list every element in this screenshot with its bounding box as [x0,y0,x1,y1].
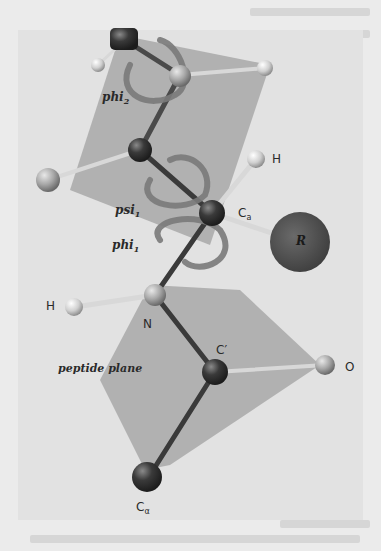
r-group-label: R [296,234,306,248]
calpha-bottom-subscript: α [144,507,149,516]
phi1-text: phi [112,238,134,252]
o-atom-label: O [345,360,354,374]
diagram-graphics [0,0,381,551]
peptide-diagram: phi2 H psi1 Ca R phi1 H N C′ O peptide p… [0,0,381,551]
phi2-text: phi [102,90,124,104]
psi1-subscript: 1 [135,209,141,219]
phi1-label: phi1 [112,238,139,254]
peptide-plane-label: peptide plane [58,362,142,375]
psi1-label: psi1 [115,203,140,219]
phi2-label: phi2 [102,90,129,106]
phi2-subscript: 2 [124,96,130,106]
calpha-mid-subscript: a [246,213,251,222]
calpha-mid-label: Ca [238,206,251,222]
h-top-label: H [272,152,281,166]
n-atom-label: N [143,317,152,331]
calpha-bottom-label: Cα [136,500,150,516]
c-prime-label: C′ [216,343,227,357]
h-left-label: H [46,299,55,313]
phi1-subscript: 1 [134,244,140,254]
psi1-text: psi [115,203,135,217]
